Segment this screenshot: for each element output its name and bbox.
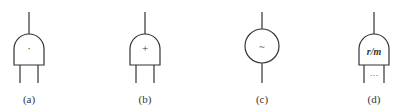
symbol-d-ellipsis: ··· <box>370 70 379 80</box>
label-c: (c) <box>256 93 269 106</box>
label-d: (d) <box>368 93 381 106</box>
symbol-c-mark: ~ <box>259 41 265 52</box>
figure-canvas: · (a) + (b) ~ (c) r/m ··· (d) <box>0 0 400 112</box>
symbol-b-mark: + <box>142 42 148 54</box>
symbol-d-mark: r/m <box>367 46 382 57</box>
label-b: (b) <box>139 93 152 106</box>
label-a: (a) <box>23 93 36 106</box>
symbol-a-mark: · <box>27 42 31 54</box>
